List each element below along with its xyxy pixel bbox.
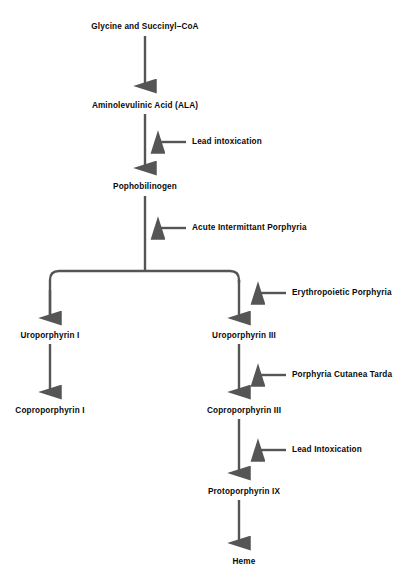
node-heme: Heme bbox=[233, 557, 256, 567]
node-uroporphyrin-iii: Uroporphyrin III bbox=[212, 331, 276, 341]
node-protoporphyrin-ix: Protoporphyrin IX bbox=[208, 487, 280, 497]
node-pophobilinogen: Pophobilinogen bbox=[113, 182, 177, 192]
node-glycine: Glycine and Succinyl–CoA bbox=[91, 22, 198, 32]
pathway-diagram: Glycine and Succinyl–CoA Aminolevulinic … bbox=[0, 0, 419, 577]
node-coproporphyrin-i: Coproporphyrin I bbox=[15, 406, 84, 416]
edge-branch-bus bbox=[50, 271, 239, 316]
modifier-acute-intermittant-porphyria: Acute Intermittant Porphyria bbox=[192, 223, 307, 233]
modifier-porphyria-cutanea-tarda: Porphyria Cutanea Tarda bbox=[292, 370, 392, 380]
modifier-lead-intoxication-coproporphyrin: Lead Intoxication bbox=[292, 445, 362, 455]
modifier-lead-intoxication-ala: Lead intoxication bbox=[192, 137, 262, 147]
node-uroporphyrin-i: Uroporphyrin I bbox=[21, 331, 80, 341]
modifier-erythropoietic-porphyria: Erythropoietic Porphyria bbox=[292, 288, 392, 298]
node-aminolevulinic-acid: Aminolevulinic Acid (ALA) bbox=[92, 101, 198, 111]
node-coproporphyrin-iii: Coproporphyrin III bbox=[207, 406, 281, 416]
